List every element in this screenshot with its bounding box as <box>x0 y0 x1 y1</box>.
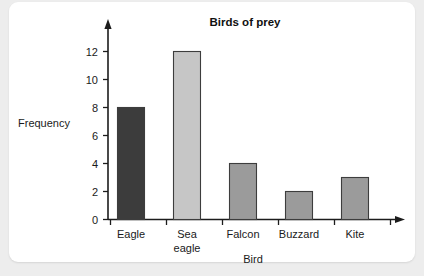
y-tick-label-10: 10 <box>86 74 98 86</box>
y-tick-label-8: 8 <box>92 102 98 114</box>
bar-eagle[interactable] <box>118 108 145 220</box>
bar-kite[interactable] <box>342 178 369 220</box>
y-axis-tick-labels: 0 2 4 6 8 10 12 <box>86 46 98 226</box>
y-tick-label-2: 2 <box>92 186 98 198</box>
y-axis-title: Frequency <box>18 117 70 129</box>
chart-title: Birds of prey <box>210 16 282 28</box>
y-tick-label-0: 0 <box>92 214 98 226</box>
y-tick-label-6: 6 <box>92 130 98 142</box>
x-axis-ticks <box>111 220 391 226</box>
y-tick-label-12: 12 <box>86 46 98 58</box>
bar-sea-eagle[interactable] <box>174 52 201 220</box>
y-axis-arrowhead <box>104 19 111 29</box>
x-category-label-eagle: Eagle <box>117 228 145 240</box>
bar-buzzard[interactable] <box>286 192 313 220</box>
x-category-label-falcon: Falcon <box>226 228 259 240</box>
bar-chart: Birds of prey 0 2 4 6 8 10 12 Ea <box>0 0 424 276</box>
x-axis-arrowhead <box>395 216 405 223</box>
x-category-label-kite: Kite <box>346 228 365 240</box>
x-category-label-sea-eagle-line2: eagle <box>174 242 201 254</box>
y-tick-label-4: 4 <box>92 158 98 170</box>
x-axis-title: Bird <box>243 253 263 265</box>
bar-falcon[interactable] <box>230 164 257 220</box>
x-category-label-sea-eagle-line1: Sea <box>177 228 197 240</box>
x-category-label-buzzard: Buzzard <box>279 228 319 240</box>
